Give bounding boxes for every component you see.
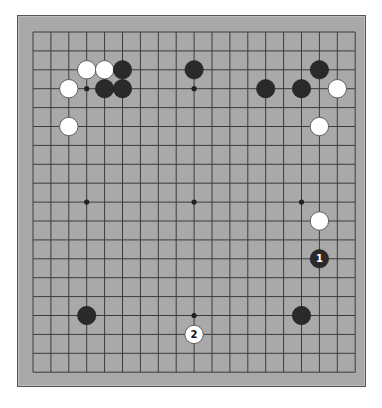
white-stone-circle bbox=[310, 117, 328, 135]
star-point bbox=[192, 86, 197, 91]
white-stone[interactable] bbox=[60, 80, 78, 98]
black-stone[interactable] bbox=[78, 306, 96, 324]
black-stone-circle bbox=[78, 306, 96, 324]
star-point bbox=[192, 313, 197, 318]
white-stone-circle bbox=[95, 61, 113, 79]
white-stone[interactable] bbox=[310, 117, 328, 135]
black-stone[interactable] bbox=[292, 306, 310, 324]
black-stone-circle bbox=[185, 61, 203, 79]
star-point bbox=[84, 86, 89, 91]
star-point bbox=[84, 200, 89, 205]
black-stone[interactable] bbox=[95, 80, 113, 98]
white-stone-circle bbox=[60, 80, 78, 98]
black-stone[interactable] bbox=[185, 61, 203, 79]
move-number-label: 1 bbox=[316, 253, 323, 264]
black-stone[interactable] bbox=[310, 61, 328, 79]
white-stone-circle bbox=[328, 80, 346, 98]
white-stone-circle bbox=[78, 61, 96, 79]
black-stone[interactable] bbox=[292, 80, 310, 98]
black-stone-circle bbox=[113, 61, 131, 79]
black-stone[interactable] bbox=[113, 80, 131, 98]
black-stone-circle bbox=[95, 80, 113, 98]
black-stone[interactable] bbox=[113, 61, 131, 79]
black-stone-circle bbox=[113, 80, 131, 98]
star-point bbox=[192, 200, 197, 205]
white-stone[interactable] bbox=[78, 61, 96, 79]
white-stone[interactable] bbox=[310, 212, 328, 230]
white-stone[interactable] bbox=[328, 80, 346, 98]
black-stone-circle bbox=[257, 80, 275, 98]
star-point bbox=[299, 200, 304, 205]
black-stone-circle bbox=[292, 80, 310, 98]
black-stone-circle bbox=[292, 306, 310, 324]
white-stone[interactable] bbox=[95, 61, 113, 79]
black-stone[interactable] bbox=[257, 80, 275, 98]
go-board-grid[interactable]: 12 bbox=[0, 0, 382, 408]
black-stone[interactable]: 1 bbox=[310, 250, 328, 268]
black-stone-circle bbox=[310, 61, 328, 79]
white-stone-circle bbox=[310, 212, 328, 230]
move-number-label: 2 bbox=[191, 329, 198, 340]
white-stone[interactable] bbox=[60, 117, 78, 135]
white-stone[interactable]: 2 bbox=[185, 325, 203, 343]
white-stone-circle bbox=[60, 117, 78, 135]
